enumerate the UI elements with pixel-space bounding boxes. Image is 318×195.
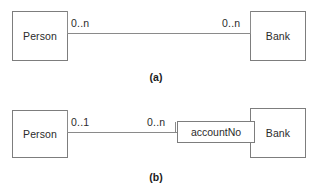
entity-label-bank-a: Bank: [266, 31, 290, 42]
association-line-b: [67, 132, 178, 133]
multiplicity-left-b: 0..1: [71, 117, 89, 128]
multiplicity-left-a: 0..n: [71, 18, 89, 29]
entity-label-person-a: Person: [23, 31, 57, 42]
association-tick-left-a: [67, 11, 68, 34]
diagram-canvas: Person 0..n 0..n Bank (a) Person 0..1 0.…: [0, 0, 318, 195]
entity-box-person-a: Person: [12, 11, 68, 61]
association-tick-right-a: [250, 11, 251, 34]
entity-box-person-b: Person: [12, 110, 68, 158]
figure-caption-a: (a): [128, 72, 184, 83]
association-attribute-box-b: accountNo: [177, 121, 255, 143]
association-line-a: [67, 33, 251, 34]
multiplicity-right-a: 0..n: [222, 18, 240, 29]
association-tick-left-b: [67, 110, 68, 133]
association-attribute-label-b: accountNo: [191, 127, 241, 138]
entity-label-bank-b: Bank: [266, 128, 290, 139]
multiplicity-right-b: 0..n: [147, 117, 165, 128]
association-tick-mid-b: [175, 122, 176, 133]
entity-box-bank-a: Bank: [250, 11, 306, 61]
entity-box-bank-b: Bank: [250, 108, 306, 158]
entity-label-person-b: Person: [23, 129, 57, 140]
figure-caption-b: (b): [128, 172, 184, 183]
